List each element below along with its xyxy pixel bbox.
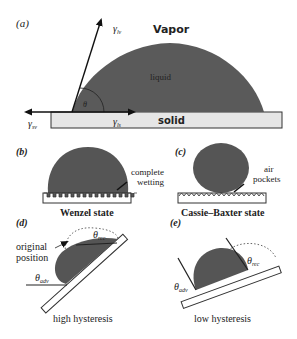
panel-b: (b) complete wetting Wenzel state xyxy=(16,146,164,218)
gamma-lv-label: γlv xyxy=(113,23,122,35)
panel-a-label: (a) xyxy=(16,17,29,30)
high-hysteresis-caption: high hysteresis xyxy=(53,313,113,324)
vapor-label: Vapor xyxy=(153,23,190,36)
theta-rec-label-high: θrec xyxy=(93,229,106,241)
theta-rec-label-low: θrec xyxy=(247,255,260,267)
wenzel-droplet xyxy=(48,147,128,193)
low-hysteresis-caption: low hysteresis xyxy=(194,313,251,324)
panel-e-label: (e) xyxy=(170,217,181,229)
cassie-droplet xyxy=(193,143,249,193)
theta-label: θ xyxy=(83,100,87,109)
wetting-diagram: (a) solid liquid θ γlv Vapor γls γsv (b) xyxy=(0,0,297,339)
gamma-sv-label: γsv xyxy=(28,118,37,130)
cassie-caption: Cassie–Baxter state xyxy=(181,207,265,218)
air-pockets-label-2: pockets xyxy=(253,174,281,184)
panel-e: (e) θrec θadv low hysteresis xyxy=(170,217,281,324)
theta-adv-tangent-low xyxy=(178,258,196,290)
complete-wetting-label: complete xyxy=(131,167,164,177)
air-pockets-label: air xyxy=(264,164,274,174)
wenzel-caption: Wenzel state xyxy=(60,207,114,218)
complete-wetting-label-2: wetting xyxy=(137,177,164,187)
theta-adv-label-low: θadv xyxy=(174,281,188,293)
panel-b-label: (b) xyxy=(16,146,28,158)
panel-c-label: (c) xyxy=(175,146,186,158)
panel-a: (a) solid liquid θ γlv Vapor γls γsv xyxy=(16,17,282,130)
theta-adv-label-high: θadv xyxy=(35,272,49,284)
panel-d-label: (d) xyxy=(16,217,28,229)
original-position-label-2: position xyxy=(16,252,48,263)
cassie-rough-substrate xyxy=(178,193,266,203)
wenzel-rough-substrate xyxy=(43,193,137,203)
panel-d: (d) θrec θadv original position high hys… xyxy=(16,217,128,324)
original-position-label: original xyxy=(16,241,47,252)
panel-c: (c) air pockets Cassie–Baxter state xyxy=(175,143,281,218)
solid-label: solid xyxy=(158,115,185,126)
liquid-label: liquid xyxy=(150,72,172,82)
